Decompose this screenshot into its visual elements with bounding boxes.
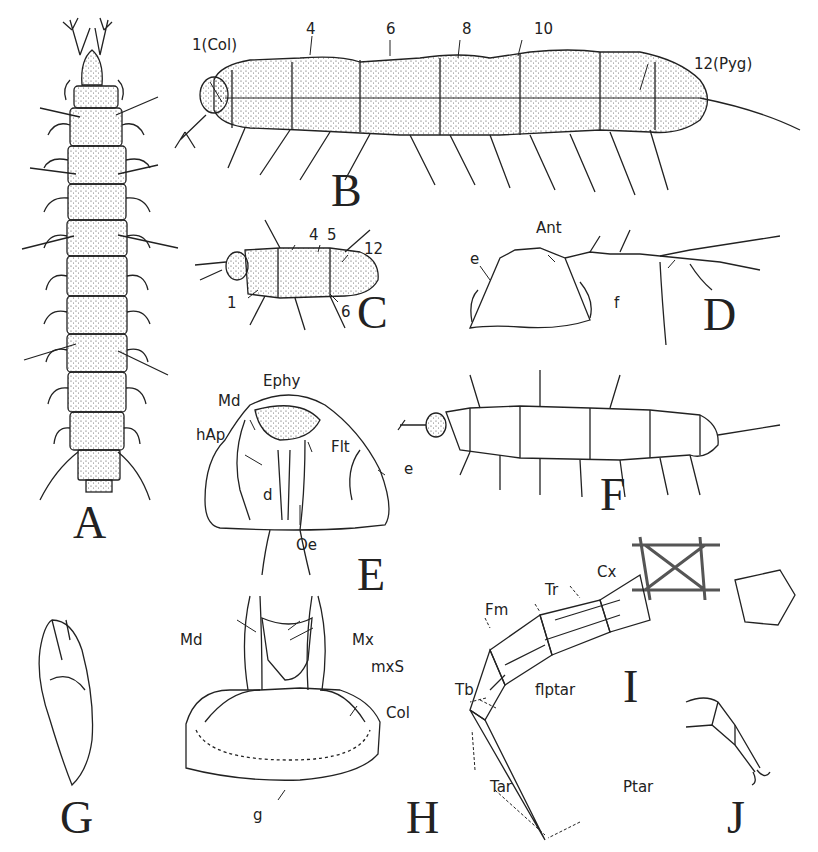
label-h-md: Md <box>180 633 202 648</box>
panel-letter-d: D <box>703 292 736 338</box>
label-e-flt: Flt <box>331 440 350 455</box>
label-b-8: 8 <box>462 22 472 37</box>
label-h-col: Col <box>386 706 410 721</box>
panel-c-drawing <box>195 220 378 330</box>
label-e-oe: Oe <box>296 538 317 553</box>
label-i-cx: Cx <box>597 565 616 580</box>
label-b-pyg: 12(Pyg) <box>694 57 752 72</box>
panel-letter-i: I <box>623 664 638 710</box>
panel-letter-a: A <box>73 500 106 546</box>
label-i-tb: Tb <box>455 683 474 698</box>
panel-letter-h: H <box>406 795 439 841</box>
panel-f-drawing <box>398 370 780 497</box>
label-c-1: 1 <box>227 296 237 311</box>
label-e-d: d <box>263 488 273 503</box>
label-c-5: 5 <box>327 228 337 243</box>
label-b-4: 4 <box>306 22 316 37</box>
label-d-e: e <box>470 252 479 267</box>
panel-j-drawing <box>686 698 770 785</box>
panel-letter-g: G <box>60 795 93 841</box>
label-i-ptar: Ptar <box>623 780 653 795</box>
panel-letter-e: E <box>357 552 385 598</box>
label-i-flptar: flptar <box>535 683 575 698</box>
label-d-f: f <box>614 296 619 311</box>
label-e-ephy: Ephy <box>263 374 300 389</box>
label-c-4: 4 <box>309 228 319 243</box>
label-h-mxs: mxS <box>371 660 404 675</box>
label-d-ant: Ant <box>536 221 562 236</box>
panel-g-drawing <box>39 620 92 785</box>
label-e-e: e <box>404 462 413 477</box>
panel-letter-b: B <box>331 168 362 214</box>
label-b-10: 10 <box>534 22 553 37</box>
panel-letter-c: C <box>357 290 388 336</box>
panel-letter-j: J <box>727 795 745 841</box>
label-c-12: 12 <box>364 242 383 257</box>
label-h-g: g <box>253 808 263 823</box>
panel-a-drawing <box>22 18 178 500</box>
label-h-mx: Mx <box>352 633 374 648</box>
label-e-hap: hAp <box>196 428 225 443</box>
label-e-md: Md <box>218 394 240 409</box>
label-i-tr: Tr <box>545 583 558 598</box>
label-i-fm: Fm <box>485 603 508 618</box>
label-b-6: 6 <box>386 22 396 37</box>
label-i-tar: Tar <box>490 780 512 795</box>
panel-letter-f: F <box>600 472 626 518</box>
figure-drawing <box>0 0 818 852</box>
label-b-col: 1(Col) <box>192 38 237 53</box>
label-c-6: 6 <box>341 305 351 320</box>
panel-h-drawing <box>186 596 380 780</box>
